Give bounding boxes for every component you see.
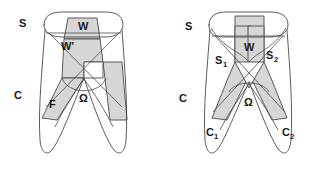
label-w: W: [78, 20, 89, 32]
label-f: F: [49, 98, 56, 110]
figure-root: S W W' C F Ω: [0, 0, 330, 171]
label-s: S: [185, 20, 192, 32]
label-c2-base: C: [282, 126, 290, 138]
panel-left: S W W' C F Ω: [0, 0, 165, 171]
label-s1-base: S: [215, 54, 222, 66]
label-s2: S 2: [266, 49, 278, 64]
label-s1: S 1: [215, 54, 227, 69]
label-s: S: [19, 17, 26, 29]
label-c1: C 1: [206, 126, 218, 141]
label-c2-subscript: 2: [290, 132, 294, 141]
label-s1-subscript: 1: [223, 60, 227, 69]
label-omega: Ω: [79, 92, 88, 104]
label-omega: Ω: [244, 96, 253, 108]
label-c: C: [179, 92, 187, 104]
label-c2: C 2: [282, 126, 294, 141]
label-s2-subscript: 2: [274, 55, 278, 64]
label-w-prime: W': [61, 40, 74, 52]
label-s2-base: S: [266, 49, 273, 61]
panel-right: S W S 1 S 2 C Ω C 1 C 2: [165, 0, 330, 171]
white-notch-patch: [84, 62, 103, 78]
label-c1-base: C: [206, 126, 214, 138]
label-c: C: [14, 89, 22, 101]
label-w: W: [244, 41, 255, 53]
label-c1-subscript: 1: [214, 132, 218, 141]
